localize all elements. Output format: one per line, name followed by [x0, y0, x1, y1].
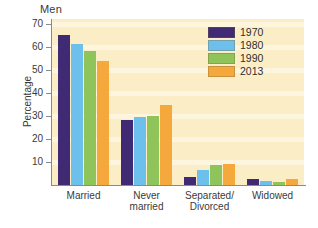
bar-chart: Men Percentage 10203040506070 MarriedNev… [0, 0, 318, 228]
chart-title: Men [40, 3, 62, 15]
legend-label: 2013 [240, 66, 263, 77]
y-tick-label: 60 [21, 42, 43, 52]
plot-area [52, 19, 304, 185]
bar-2013 [160, 105, 172, 185]
category-label: Separated/ Divorced [178, 190, 241, 212]
legend-item-1990: 1990 [208, 52, 263, 65]
y-tick-mark [46, 162, 51, 163]
bar-1990 [147, 116, 159, 185]
y-tick-label: 70 [21, 19, 43, 29]
y-axis-line [51, 19, 52, 186]
y-tick-label: 20 [21, 134, 43, 144]
bar-1990 [210, 165, 222, 185]
legend-swatch-icon [208, 53, 235, 64]
legend-label: 1980 [240, 40, 263, 51]
category-label: Widowed [241, 190, 304, 201]
y-tick-mark [46, 47, 51, 48]
legend-swatch-icon [208, 66, 235, 77]
bar-1990 [84, 51, 96, 185]
bar-1980 [197, 170, 209, 185]
y-tick-label: 30 [21, 111, 43, 121]
y-tick-mark [46, 116, 51, 117]
legend-swatch-icon [208, 40, 235, 51]
category-label: Married [52, 190, 115, 201]
y-tick-mark [46, 70, 51, 71]
y-tick-label: 50 [21, 65, 43, 75]
bar-1980 [134, 117, 146, 185]
y-tick-label: 40 [21, 88, 43, 98]
bar-group [52, 19, 115, 185]
legend-swatch-icon [208, 27, 235, 38]
bar-1970 [121, 120, 133, 185]
bar-2013 [97, 61, 109, 186]
chart-legend: 1970198019902013 [208, 26, 263, 78]
y-tick-mark [46, 24, 51, 25]
bar-2013 [223, 164, 235, 185]
legend-label: 1970 [240, 27, 263, 38]
legend-item-2013: 2013 [208, 65, 263, 78]
x-axis-line [51, 185, 306, 186]
bar-group [115, 19, 178, 185]
category-label: Never married [115, 190, 178, 212]
legend-label: 1990 [240, 53, 263, 64]
bar-1970 [184, 177, 196, 185]
legend-item-1970: 1970 [208, 26, 263, 39]
legend-item-1980: 1980 [208, 39, 263, 52]
y-tick-label: 10 [21, 157, 43, 167]
y-tick-mark [46, 93, 51, 94]
bar-1970 [58, 35, 70, 185]
y-tick-mark [46, 139, 51, 140]
bar-1980 [71, 44, 83, 185]
